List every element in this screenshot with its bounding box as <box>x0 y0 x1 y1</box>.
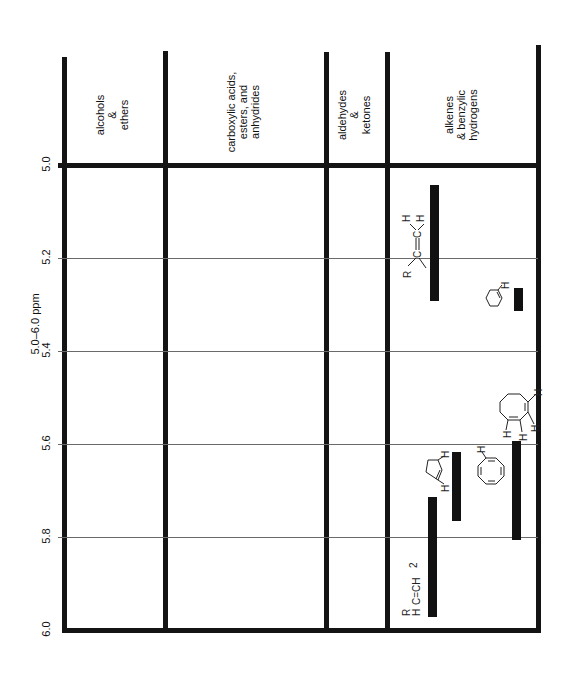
column-divider <box>163 51 168 633</box>
y-tick-label: 5.0 <box>40 156 52 171</box>
header-line: & benzylic <box>455 65 467 165</box>
header-line: & <box>106 65 118 165</box>
column-header-alkenes-benzylic: alkenes & benzylic hydrogens <box>443 65 483 165</box>
y-axis-title: 5.0–6.0 ppm <box>29 293 41 354</box>
header-line: carboxylic acids, <box>225 62 237 162</box>
svg-text:C: C <box>412 251 423 258</box>
range-bar-terminal-alkene <box>428 497 437 617</box>
column-header-carboxylic-acids: carboxylic acids, esters, and anhydrides <box>225 62 265 162</box>
gridline-5-2 <box>58 258 538 259</box>
svg-text:H: H <box>500 282 511 289</box>
column-divider <box>536 45 541 633</box>
bottom-axis-line-6-0 <box>62 628 541 633</box>
svg-text:H: H <box>502 431 513 438</box>
svg-text:H: H <box>411 609 422 616</box>
svg-text:C=CH: C=CH <box>411 577 422 605</box>
structure-terminal-alkene-icon: R H C=CH 2 <box>398 560 428 618</box>
svg-text:C: C <box>412 231 423 238</box>
column-divider <box>62 57 67 633</box>
y-tick-label: 5.2 <box>40 249 52 264</box>
range-bar-cyclohexene <box>514 288 523 311</box>
svg-text:H: H <box>415 215 426 222</box>
y-tick-label: 5.4 <box>40 342 52 357</box>
header-line: aldehydes <box>336 65 348 165</box>
gridline-5-6 <box>58 444 538 445</box>
header-line: ethers <box>118 65 130 165</box>
header-line: anhydrides <box>249 62 261 162</box>
structure-cyclohexene-icon: H <box>482 282 512 314</box>
column-header-aldehydes-ketones: aldehydes & ketones <box>336 65 376 165</box>
y-tick-label: 5.8 <box>40 528 52 543</box>
svg-text:H: H <box>533 389 544 396</box>
gridline-5-8 <box>58 537 538 538</box>
top-axis-line-5-0 <box>58 163 541 168</box>
svg-text:H: H <box>440 451 451 458</box>
svg-text:2: 2 <box>408 562 419 568</box>
svg-text:H: H <box>476 446 487 453</box>
gridline-5-4 <box>58 351 538 352</box>
range-bar-cyclooctadiene <box>512 441 521 540</box>
header-line: ketones <box>360 65 372 165</box>
svg-text:H: H <box>518 434 529 441</box>
svg-text:H: H <box>530 425 541 432</box>
header-line: & <box>348 65 360 165</box>
structure-cyclooctadiene-icon: H H H H <box>494 386 544 441</box>
y-tick-label: 6.0 <box>40 621 52 636</box>
column-divider <box>385 52 390 633</box>
svg-text:R: R <box>402 271 413 278</box>
column-divider <box>324 52 329 633</box>
svg-text:H: H <box>401 215 412 222</box>
structure-internal-alkene-icon: H H C C R <box>396 210 436 282</box>
y-tick-label: 5.6 <box>40 435 52 450</box>
header-line: esters, and <box>237 62 249 162</box>
svg-text:H: H <box>440 485 451 492</box>
structure-cyclopentene-icon: H H <box>418 448 450 496</box>
column-header-alcohols-ethers: alcohols & ethers <box>94 65 134 165</box>
range-bar-cyclopentene <box>452 452 461 521</box>
header-line: alcohols <box>94 65 106 165</box>
header-line: hydrogens <box>467 65 479 165</box>
structure-cyclooctatetraene-icon: H <box>474 446 510 490</box>
header-line: alkenes <box>443 65 455 165</box>
